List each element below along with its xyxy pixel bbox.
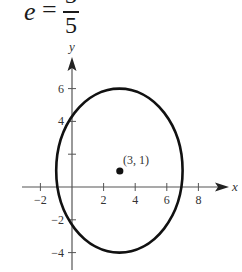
x-tick-label: 8 [195,193,201,207]
y-tick-label: 4 [58,114,64,128]
y-tick-label: −2 [51,213,64,227]
x-axis: x −2 2 4 6 8 [22,179,238,207]
center-point-label: (3, 1) [123,153,149,167]
center-point [116,167,123,174]
y-tick-label: 6 [58,82,64,96]
x-tick-label: −2 [34,193,47,207]
y-tick-label: −4 [51,246,64,260]
ellipse-graph: x −2 2 4 6 8 y 6 4 −2 −4 (3, 1) [0,0,242,272]
x-tick-label: 2 [101,193,107,207]
y-axis: y 6 4 −2 −4 [51,39,76,270]
x-tick-label: 6 [164,193,170,207]
x-axis-label: x [231,179,238,194]
y-axis-label: y [67,39,75,54]
x-tick-label: 4 [132,193,138,207]
